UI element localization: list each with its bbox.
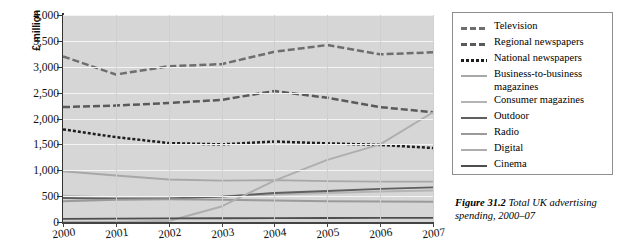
legend-item[interactable]: Cinema (461, 158, 606, 173)
gridline-horizontal (63, 15, 434, 16)
gridline-horizontal (63, 144, 434, 145)
gridline-horizontal (63, 41, 434, 42)
gridline-horizontal (63, 93, 434, 94)
legend-swatch-line-icon (461, 159, 487, 173)
x-axis-tick-label: 2002 (157, 226, 181, 241)
legend-swatch-line-icon (461, 95, 487, 109)
legend-item[interactable]: Outdoor (461, 110, 606, 125)
y-axis-tick-label: 4,000 (2, 9, 63, 21)
caption-figure-number: Figure 31.2 (455, 197, 506, 208)
x-axis-line (62, 222, 434, 224)
gridline-horizontal (63, 170, 434, 171)
legend-label: National newspapers (494, 52, 582, 65)
legend-label: Cinema (494, 158, 527, 171)
x-axis-tick-label: 2006 (369, 226, 393, 241)
legend-item[interactable]: Regional newspapers (461, 36, 606, 51)
legend-label: Regional newspapers (494, 36, 584, 49)
gridline-vertical (327, 15, 328, 222)
series-line (63, 112, 433, 222)
legend-swatch-line-icon (461, 143, 487, 157)
legend-label: Television (494, 20, 538, 33)
legend-item[interactable]: Radio (461, 126, 606, 141)
legend-swatch-line-icon (461, 37, 487, 51)
y-axis-tick-label: 2,000 (2, 113, 63, 125)
legend-item[interactable]: National newspapers (461, 52, 606, 67)
legend-item[interactable]: Digital (461, 142, 606, 157)
chart-legend: TelevisionRegional newspapersNational ne… (452, 12, 613, 175)
x-axis-tick-label: 2003 (210, 226, 234, 241)
legend-label: Digital (494, 142, 523, 155)
legend-swatch-line-icon (461, 21, 487, 35)
gridline-vertical (169, 15, 170, 222)
x-axis-tick-label: 2007 (422, 226, 446, 241)
gridline-vertical (433, 15, 434, 222)
legend-swatch-line-icon (461, 53, 487, 67)
gridline-vertical (380, 15, 381, 222)
x-axis-tick-label: 2005 (316, 226, 340, 241)
legend-item[interactable]: Consumer magazines (461, 94, 606, 109)
legend-label: Business-to-business magazines (494, 68, 606, 93)
y-axis-tick-label: 3,500 (2, 35, 63, 47)
figure-caption: Figure 31.2 Total UK advertising spendin… (455, 196, 615, 222)
figure-total-uk-advertising-spending: £ million 05001,0001,5002,0002,5003,0003… (0, 0, 623, 241)
gridline-horizontal (63, 67, 434, 68)
y-axis-tick-label: 1,000 (2, 164, 63, 176)
y-axis-tick-label: 500 (2, 190, 63, 202)
series-line (63, 45, 433, 74)
gridline-vertical (116, 15, 117, 222)
series-line (63, 199, 433, 202)
legend-label: Outdoor (494, 110, 529, 123)
gridline-vertical (222, 15, 223, 222)
legend-label: Consumer magazines (494, 94, 584, 107)
y-axis-tick-label: 1,500 (2, 138, 63, 150)
plot-canvas (63, 15, 434, 222)
legend-label: Radio (494, 126, 519, 139)
legend-swatch-line-icon (461, 127, 487, 141)
chart-area: £ million 05001,0001,5002,0002,5003,0003… (0, 0, 440, 241)
gridline-horizontal (63, 119, 434, 120)
y-axis-tick-label: 2,500 (2, 87, 63, 99)
legend-swatch-line-icon (461, 69, 487, 83)
gridline-horizontal (63, 196, 434, 197)
legend-item[interactable]: Television (461, 20, 606, 35)
y-axis-tick-label: 0 (2, 216, 63, 228)
legend-item[interactable]: Business-to-business magazines (461, 68, 606, 93)
x-axis-tick-label: 2004 (263, 226, 287, 241)
y-axis-tick-label: 3,000 (2, 61, 63, 73)
series-line (63, 171, 433, 181)
legend-swatch-line-icon (461, 111, 487, 125)
series-line (63, 91, 433, 112)
gridline-vertical (274, 15, 275, 222)
series-line (63, 218, 433, 219)
x-axis-tick-label: 2001 (104, 226, 128, 241)
y-axis-tick-labels: 05001,0001,5002,0002,5003,0003,5004,000 (0, 0, 63, 241)
x-axis-tick-label: 2000 (52, 226, 76, 241)
